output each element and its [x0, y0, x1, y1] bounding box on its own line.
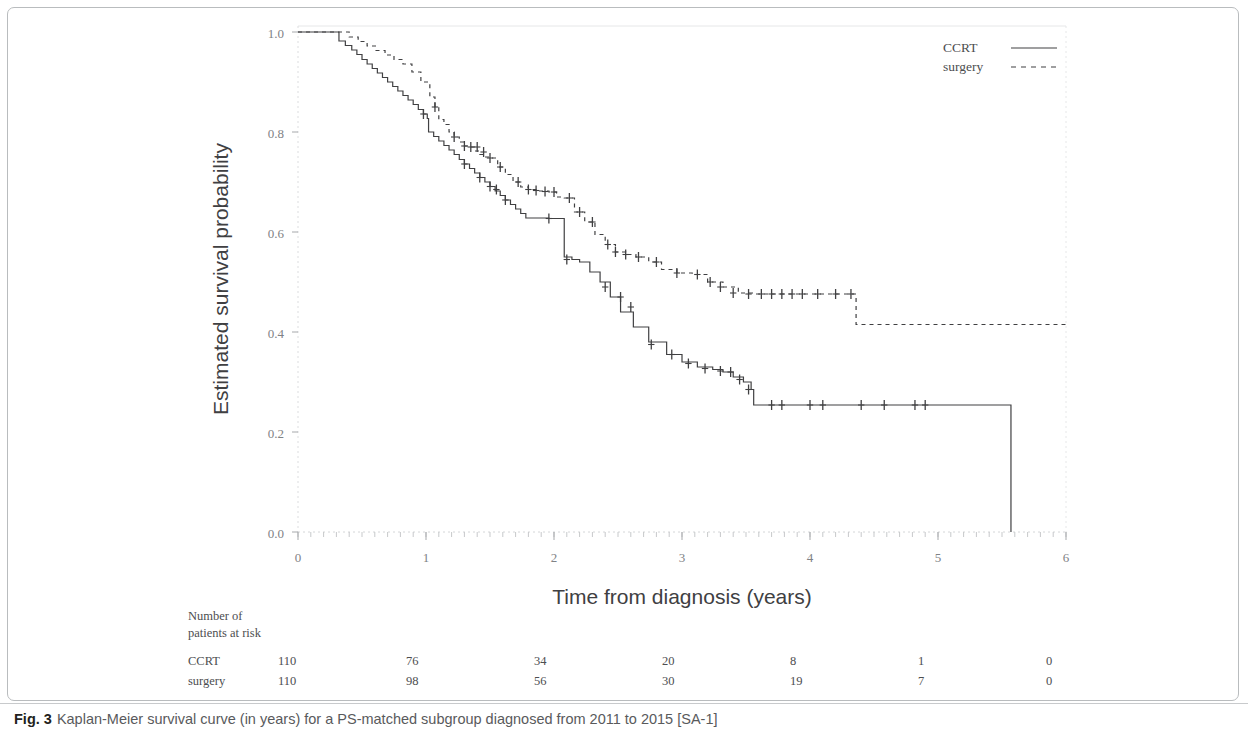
legend-label-surgery: surgery [943, 59, 983, 74]
number-at-risk-table: Number ofpatients at riskCCRT11076342081… [188, 609, 1052, 688]
x-tick-label: 1 [423, 550, 430, 565]
y-tick-label: 0.8 [268, 126, 284, 141]
figure-caption: Fig. 3 Kaplan-Meier survival curve (in y… [0, 703, 1248, 733]
risk-row-value: 0 [1046, 674, 1052, 688]
kaplan-meier-plot: 0123456 0.00.20.40.60.81.0 Time from dia… [0, 0, 1248, 703]
x-tick-label: 4 [807, 550, 814, 565]
series-ccrt [298, 32, 1011, 532]
legend-label-ccrt: CCRT [943, 40, 978, 55]
y-tick-label: 1.0 [268, 26, 284, 41]
y-tick-label: 0.2 [268, 426, 284, 441]
y-axis-title: Estimated survival probability [209, 143, 232, 415]
risk-row-value: 30 [662, 674, 675, 688]
caption-description: Kaplan-Meier survival curve (in years) f… [57, 711, 718, 727]
x-tick-label: 2 [551, 550, 558, 565]
risk-table-heading-line2: patients at risk [188, 626, 262, 640]
risk-row-value: 76 [406, 654, 419, 668]
risk-row-value: 98 [406, 674, 419, 688]
y-tick-label: 0.4 [268, 326, 285, 341]
risk-row-value: 56 [534, 674, 547, 688]
risk-row-value: 8 [790, 654, 796, 668]
survival-curve-ccrt [298, 32, 1011, 532]
x-axis-tick-labels: 0123456 [295, 550, 1070, 565]
risk-row-value: 20 [662, 654, 675, 668]
y-axis-tick-labels: 0.00.20.40.60.81.0 [268, 26, 285, 541]
censor-marks-ccrt [420, 109, 928, 410]
risk-row-value: 19 [790, 674, 803, 688]
caption-figure-number: Fig. 3 [14, 711, 52, 727]
chart-legend: CCRTsurgery [943, 40, 1057, 74]
x-axis-title: Time from diagnosis (years) [552, 585, 811, 608]
x-tick-label: 5 [935, 550, 942, 565]
risk-row-label: surgery [188, 674, 226, 688]
x-tick-label: 0 [295, 550, 302, 565]
risk-row-label: CCRT [188, 654, 220, 668]
risk-row-value: 110 [278, 674, 296, 688]
risk-row-value: 1 [918, 654, 924, 668]
risk-table-row: CCRT110763420810 [188, 654, 1052, 668]
risk-row-value: 0 [1046, 654, 1052, 668]
risk-table-row: surgery1109856301970 [188, 674, 1052, 688]
risk-row-value: 110 [278, 654, 296, 668]
x-tick-label: 3 [679, 550, 686, 565]
y-tick-label: 0.6 [268, 226, 285, 241]
risk-row-value: 34 [534, 654, 547, 668]
series-surgery [298, 32, 1066, 325]
series-layer [298, 32, 1066, 532]
survival-curve-surgery [298, 32, 1066, 325]
axis-ticks [292, 32, 1066, 540]
y-tick-label: 0.0 [268, 526, 284, 541]
censor-marks-surgery [432, 102, 854, 299]
risk-row-value: 7 [918, 674, 924, 688]
figure-root: 0123456 0.00.20.40.60.81.0 Time from dia… [0, 0, 1248, 733]
x-tick-label: 6 [1063, 550, 1070, 565]
risk-table-heading-line1: Number of [188, 609, 243, 623]
